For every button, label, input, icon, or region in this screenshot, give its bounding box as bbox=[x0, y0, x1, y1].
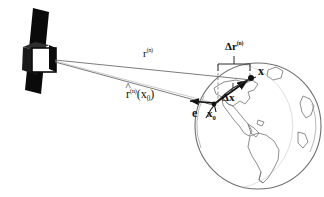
label-range-vector-sup: (n) bbox=[147, 47, 153, 53]
label-point-x: x bbox=[258, 65, 264, 77]
label-range-vector: r(n) bbox=[143, 48, 153, 59]
point-x0-marker bbox=[212, 102, 217, 107]
earth-globe bbox=[195, 63, 324, 197]
label-range-correction-base: Δr bbox=[225, 40, 237, 52]
figure-canvas: p r(n) r(n)(x0) Δr(n) x x0 Δx e bbox=[0, 0, 324, 197]
label-unit-range-vector-argclose: ) bbox=[150, 87, 154, 101]
label-unit-range-vector-base: r bbox=[126, 88, 130, 100]
label-range-correction: Δr(n) bbox=[225, 41, 243, 52]
label-point-x0-sub: 0 bbox=[213, 114, 216, 121]
label-unit-range-vector: r(n)(x0) bbox=[126, 88, 154, 104]
label-unit-range-vector-sup: (n) bbox=[130, 87, 137, 94]
diagram-svg bbox=[0, 0, 324, 197]
label-range-correction-sup: (n) bbox=[237, 40, 243, 46]
label-delta-x: Δx bbox=[222, 92, 234, 103]
satellite-bus-right bbox=[49, 45, 56, 72]
label-unit-vector-e: e bbox=[192, 107, 197, 119]
globe-outline bbox=[195, 63, 321, 189]
point-x-marker bbox=[248, 75, 254, 81]
label-point-x0: x0 bbox=[207, 108, 216, 122]
label-unit-range-vector-arg: (x bbox=[137, 87, 147, 101]
satellite-label-p: p bbox=[36, 52, 42, 64]
